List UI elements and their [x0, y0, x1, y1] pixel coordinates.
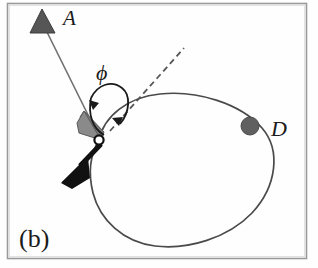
label-a: A — [61, 6, 76, 30]
label-phi: ϕ — [96, 60, 107, 85]
figure-canvas: A D ϕ (b) — [0, 0, 318, 268]
circle-marker-d — [241, 117, 259, 135]
label-d: D — [270, 116, 287, 141]
open-circle-scatter-point — [94, 135, 103, 144]
panel-label-b: (b) — [19, 224, 49, 253]
figure-panel-b: A D ϕ (b) — [0, 0, 318, 268]
